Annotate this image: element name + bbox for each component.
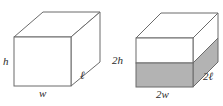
label-original-length: ℓ: [80, 70, 85, 81]
label-original-width: w: [39, 88, 46, 99]
scaled-box-front-face-upper: [136, 38, 193, 63]
scaled-box-front-face-shaded: [136, 63, 193, 87]
label-scaled-length: 2ℓ: [203, 71, 213, 82]
figure-container: h w ℓ 2h 2w 2ℓ: [0, 0, 223, 106]
original-box-front-face: [14, 37, 71, 86]
original-box: [14, 12, 100, 86]
geometry-diagram: [0, 0, 223, 106]
label-scaled-width: 2w: [156, 89, 169, 100]
label-scaled-height: 2h: [112, 55, 123, 66]
label-original-height: h: [3, 56, 9, 67]
